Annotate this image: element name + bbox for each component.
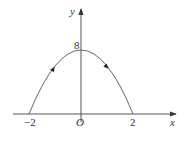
y-tick-8: 8 bbox=[74, 39, 80, 51]
origin-label: O bbox=[76, 116, 84, 128]
x-tick-2: 2 bbox=[130, 116, 136, 128]
diagram-canvas: y 8 −2 O 2 x bbox=[0, 0, 189, 147]
curve-arrow-right-icon bbox=[103, 64, 110, 71]
x-axis-label: x bbox=[169, 116, 175, 128]
y-axis-label: y bbox=[69, 5, 75, 17]
x-tick-neg2: −2 bbox=[24, 116, 36, 128]
